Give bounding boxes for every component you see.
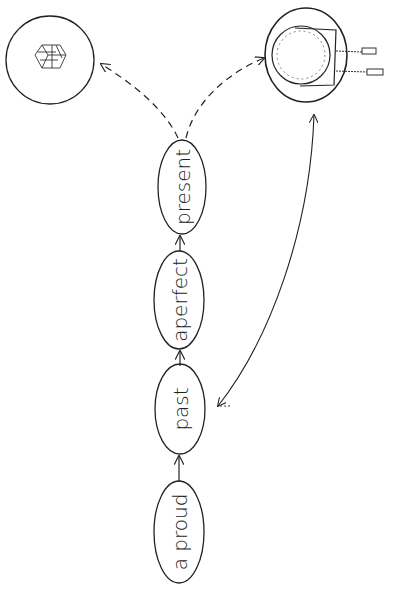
node-label-a-proud: a proud: [168, 494, 192, 571]
edge-clock-past: [218, 115, 314, 406]
gift-node: [6, 16, 94, 104]
edge-present-to-clock: [186, 58, 264, 138]
gift-box-icon: [35, 45, 66, 68]
node-label-past: past: [169, 387, 193, 430]
node-present: present: [158, 140, 206, 234]
node-aperfect: aperfect: [154, 251, 204, 349]
node-label-present: present: [171, 149, 195, 225]
clock-node: [265, 8, 383, 102]
edge-present-to-gift: [101, 64, 178, 138]
diagram-canvas: present aperfect past a proud: [0, 0, 394, 601]
node-label-aperfect: aperfect: [168, 258, 192, 342]
diagram-svg: present aperfect past a proud: [0, 0, 394, 601]
clock-plug-icon: [336, 48, 383, 75]
node-past: past: [155, 364, 205, 454]
node-a-proud: a proud: [154, 481, 204, 583]
